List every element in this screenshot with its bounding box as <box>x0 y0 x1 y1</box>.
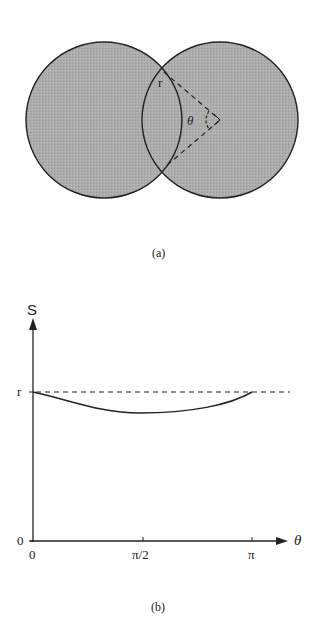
x-axis-label: θ <box>294 533 301 548</box>
y-tick-label-0: 0 <box>17 534 24 547</box>
x-axis-arrow-icon <box>276 537 288 545</box>
caption-a: (a) <box>152 247 165 259</box>
s-curve <box>33 392 252 413</box>
x-tick-label-pi: π <box>248 548 255 561</box>
plot-b <box>29 318 290 545</box>
caption-b: (b) <box>151 601 165 613</box>
angle-label: θ <box>187 114 193 127</box>
y-axis-label: S <box>27 302 37 317</box>
y-axis-arrow-icon <box>29 318 37 330</box>
overlapping-circles <box>26 42 298 198</box>
x-tick-label-0: 0 <box>29 548 36 561</box>
radius-label: r <box>158 76 162 89</box>
x-tick-label-half-pi: π/2 <box>132 548 149 561</box>
y-tick-label-r: r <box>17 385 21 398</box>
figure-canvas <box>0 0 334 641</box>
